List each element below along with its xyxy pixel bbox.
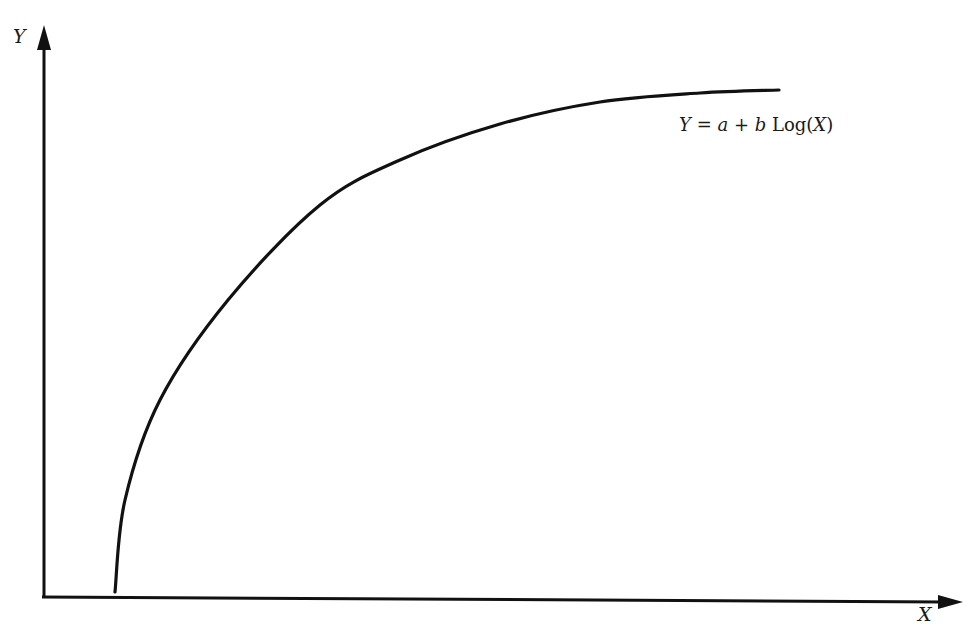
equation-arg: X	[813, 114, 826, 135]
log-curve	[115, 90, 779, 592]
x-axis-label: X	[918, 603, 932, 625]
x-axis-arrow-icon	[938, 595, 963, 609]
equation-a: a	[717, 114, 728, 135]
y-axis-label: Y	[13, 25, 26, 47]
equation-close: )	[826, 114, 833, 135]
equation-annotation: Y = a + b Log(X)	[679, 114, 833, 135]
chart-canvas	[0, 0, 970, 628]
equation-plus: +	[734, 114, 749, 135]
equation-equals: =	[697, 114, 712, 135]
x-axis-line	[42, 597, 945, 602]
equation-lhs: Y	[679, 114, 691, 135]
equation-b: b	[755, 114, 767, 135]
equation-fn: Log(	[772, 114, 813, 135]
y-axis-arrow-icon	[37, 25, 51, 50]
